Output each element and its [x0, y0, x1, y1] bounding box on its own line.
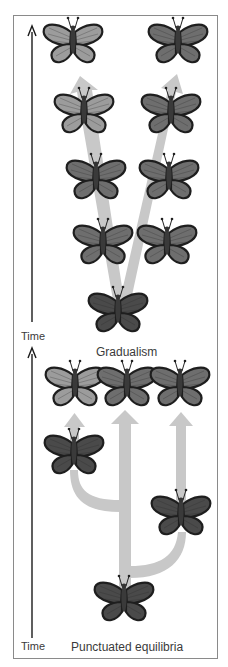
butterfly-icon [95, 575, 154, 621]
butterfly-icon [98, 360, 157, 406]
butterfly-icon [138, 218, 197, 264]
gradualism-time-label: Time [21, 330, 45, 342]
butterfly-icon [140, 153, 199, 199]
butterfly-icon [55, 87, 114, 133]
punctuated-title: Punctuated equilibria [71, 640, 183, 654]
butterfly-icon [89, 286, 148, 332]
butterfly-icon [67, 153, 126, 199]
butterfly-icon [74, 218, 133, 264]
butterfly-icon [44, 17, 103, 63]
butterfly-icon [142, 87, 201, 133]
butterfly-icon [149, 17, 208, 63]
butterfly-icon [152, 489, 211, 535]
butterfly-icon [46, 360, 105, 406]
gradualism-title: Gradualism [96, 345, 157, 359]
butterfly-icon [151, 360, 210, 406]
punctuated-time-label: Time [21, 640, 45, 652]
butterfly-icon [45, 428, 104, 474]
